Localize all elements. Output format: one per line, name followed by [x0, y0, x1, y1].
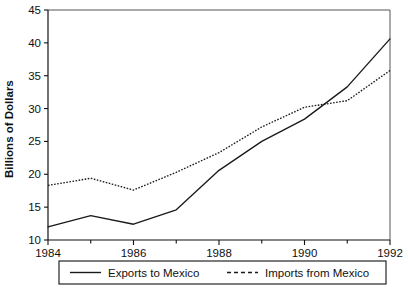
y-tick-label: 30	[28, 103, 41, 115]
chart-legend: Exports to Mexico Imports from Mexico	[59, 261, 386, 284]
chart-figure: Billions of Dollars 1015202530354045 198…	[0, 0, 408, 294]
y-axis-title-text: Billions of Dollars	[3, 80, 15, 178]
legend-label-exports: Exports to Mexico	[108, 267, 199, 279]
y-tick-label: 25	[28, 135, 41, 147]
x-tick-label: 1990	[292, 247, 318, 259]
x-tick-label: 1984	[35, 247, 61, 259]
y-tick-label: 10	[28, 234, 41, 246]
line-chart: Billions of Dollars 1015202530354045 198…	[0, 0, 408, 294]
y-tick-label: 15	[28, 201, 41, 213]
y-tick-label: 45	[28, 4, 41, 16]
y-tick-label: 35	[28, 70, 41, 82]
y-tick-label: 40	[28, 37, 41, 49]
x-tick-label: 1988	[206, 247, 232, 259]
y-tick-label: 20	[28, 168, 41, 180]
legend-label-imports: Imports from Mexico	[265, 267, 369, 279]
x-tick-label: 1992	[377, 247, 403, 259]
x-tick-label: 1986	[121, 247, 147, 259]
y-axis-title: Billions of Dollars	[3, 80, 15, 178]
chart-background	[0, 0, 408, 294]
